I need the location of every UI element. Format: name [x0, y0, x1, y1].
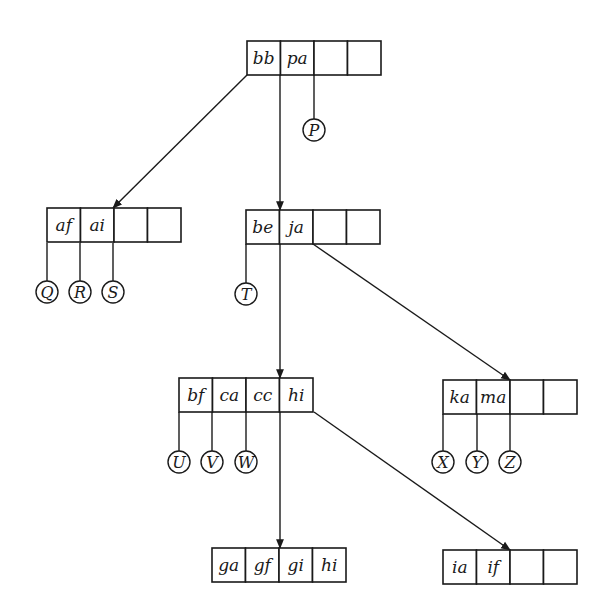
- key-cell: [544, 550, 578, 584]
- key-label: hi: [288, 385, 304, 405]
- key-cell: [544, 380, 578, 414]
- key-label: hi: [321, 555, 337, 575]
- leaf-label: P: [308, 121, 320, 140]
- leaf-label: R: [73, 283, 86, 302]
- leaf-record-r: R: [69, 243, 91, 303]
- tree-node-n_ia: iaif: [443, 550, 577, 584]
- btree-diagram: PQRSTUVWXYZ bbpaafaibejabfcacchikamagagf…: [0, 0, 611, 613]
- tree-node-n_be: beja: [246, 210, 380, 244]
- key-label: ga: [218, 555, 239, 575]
- key-label: pa: [287, 48, 308, 68]
- leaf-record-u: U: [168, 412, 190, 473]
- tree-node-n_af: afai: [47, 208, 181, 242]
- leaf-label: Y: [472, 453, 484, 472]
- leaf-record-y: Y: [466, 414, 488, 473]
- leaf-label: U: [172, 453, 186, 472]
- key-label: ma: [480, 387, 506, 407]
- key-label: bf: [187, 385, 207, 405]
- tree-node-n_bf: bfcacchi: [179, 378, 313, 412]
- edge-arrow-root-to-n_af: [113, 75, 247, 208]
- leaf-record-t: T: [235, 244, 257, 305]
- leaf-record-x: X: [432, 414, 454, 473]
- leaf-label: W: [238, 453, 256, 472]
- key-cell: [314, 41, 348, 75]
- key-label: ai: [89, 215, 105, 235]
- leaf-record-q: Q: [36, 243, 58, 303]
- edge-arrow-n_bf-to-n_ia: [314, 412, 510, 550]
- key-cell: [114, 208, 148, 242]
- key-label: be: [252, 217, 273, 237]
- tree-node-n_ka: kama: [443, 380, 577, 414]
- leaf-label: Q: [40, 283, 53, 302]
- tree-node-root: bbpa: [247, 41, 381, 75]
- key-cell: [148, 208, 182, 242]
- key-label: af: [56, 215, 75, 235]
- key-cell: [510, 380, 544, 414]
- key-cell: [510, 550, 544, 584]
- edge-arrow-n_be-to-n_ka: [313, 244, 510, 380]
- key-label: cc: [253, 385, 273, 405]
- key-label: bb: [253, 48, 275, 68]
- leaf-record-w: W: [235, 412, 257, 473]
- leaf-record-s: S: [102, 243, 124, 303]
- key-cell: [347, 210, 381, 244]
- leaf-record-z: Z: [499, 414, 521, 473]
- key-cell: [313, 210, 347, 244]
- key-cell: [348, 41, 382, 75]
- tree-node-n_ga: gagfgihi: [212, 548, 346, 582]
- key-label: ca: [219, 385, 239, 405]
- leaf-record-v: V: [201, 412, 223, 473]
- key-label: ia: [452, 557, 468, 577]
- edges-layer: [113, 75, 510, 550]
- leaf-record-p: P: [303, 75, 325, 141]
- key-label: ka: [450, 387, 470, 407]
- leaf-label: S: [108, 283, 119, 302]
- key-label: gi: [288, 555, 304, 575]
- leaf-label: Z: [503, 453, 516, 472]
- key-label: gf: [254, 555, 274, 575]
- leaf-label: X: [435, 453, 449, 472]
- leaf-label: T: [241, 285, 253, 304]
- leaf-label: V: [206, 453, 219, 472]
